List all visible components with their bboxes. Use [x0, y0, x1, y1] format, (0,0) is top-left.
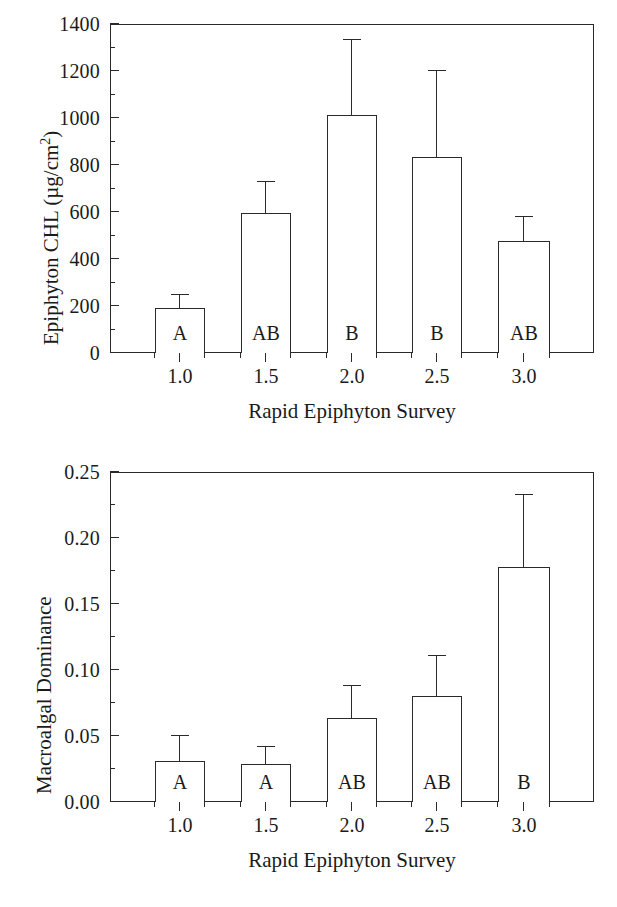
x-tick-mark-minor [290, 353, 291, 358]
y-tick-mark [110, 504, 115, 505]
y-axis-title-bottom: Macroalgal Dominance [32, 596, 56, 794]
error-bar-cap [428, 70, 446, 71]
chart-panel-epiphyton-chl: 0200400600800100012001400 1.01.52.02.53.… [0, 0, 617, 450]
y-tick-label: 0.25 [22, 462, 100, 482]
x-tick-label: 3.0 [484, 815, 564, 835]
x-tick-mark-minor [154, 802, 155, 807]
y-tick-mark [110, 305, 119, 306]
error-bar-stem [351, 39, 352, 115]
y-tick-label: 1200 [22, 61, 100, 81]
significance-letter: AB [221, 323, 311, 343]
significance-letter: B [392, 323, 482, 343]
y-tick-label: 0.00 [22, 792, 100, 812]
x-tick-mark-minor [461, 353, 462, 358]
x-tick-mark-minor [154, 353, 155, 358]
y-tick-mark [110, 164, 119, 165]
x-tick-label: 2.5 [397, 815, 477, 835]
bar [327, 115, 377, 353]
y-tick-mark [110, 141, 115, 142]
x-tick-mark-minor [549, 802, 550, 807]
error-bar-stem [265, 181, 266, 213]
x-tick-mark-minor [497, 802, 498, 807]
y-tick-label: 0 [22, 343, 100, 363]
y-tick-label: 1000 [22, 108, 100, 128]
x-tick-label: 1.0 [140, 366, 220, 386]
error-bar-stem [179, 294, 180, 308]
x-tick-label: 1.0 [140, 815, 220, 835]
x-tick-mark [523, 802, 524, 811]
x-tick-mark-minor [549, 353, 550, 358]
x-tick-mark-minor [240, 802, 241, 807]
x-tick-label: 2.0 [312, 366, 392, 386]
x-tick-mark [351, 802, 352, 811]
x-tick-mark-minor [290, 802, 291, 807]
x-tick-mark-minor [240, 353, 241, 358]
significance-letter: A [135, 323, 225, 343]
error-bar-stem [523, 494, 524, 567]
error-bar-cap [171, 735, 189, 736]
x-tick-label: 1.5 [226, 366, 306, 386]
y-tick-mark [110, 282, 115, 283]
y-tick-mark [110, 669, 119, 670]
x-tick-mark-minor [326, 802, 327, 807]
error-bar-cap [515, 494, 533, 495]
significance-letter: AB [307, 772, 397, 792]
y-tick-mark [110, 768, 115, 769]
error-bar-stem [523, 217, 524, 241]
y-tick-mark [110, 188, 115, 189]
y-tick-mark [110, 352, 119, 353]
bar [498, 567, 550, 802]
x-tick-mark [436, 353, 437, 362]
error-bar-stem [436, 655, 437, 696]
x-tick-mark [436, 802, 437, 811]
y-tick-mark [110, 258, 119, 259]
x-axis-title-bottom: Rapid Epiphyton Survey [50, 848, 617, 872]
x-tick-mark [265, 802, 266, 811]
y-tick-mark [110, 537, 119, 538]
y-axis-title-top: Epiphyton CHL (µg/cm2) [34, 131, 63, 345]
y-tick-label: 0.20 [22, 528, 100, 548]
error-bar-cap [257, 181, 275, 182]
y-tick-mark [110, 471, 119, 472]
y-tick-mark [110, 70, 119, 71]
error-bar-cap [515, 216, 533, 217]
x-tick-label: 2.5 [397, 366, 477, 386]
x-tick-mark [179, 353, 180, 362]
x-tick-mark-minor [204, 353, 205, 358]
x-tick-mark-minor [461, 802, 462, 807]
y-tick-mark [110, 235, 115, 236]
x-tick-mark [351, 353, 352, 362]
x-tick-mark-minor [411, 353, 412, 358]
y-tick-mark [110, 801, 119, 802]
x-axis-title-top: Rapid Epiphyton Survey [50, 399, 617, 423]
x-tick-mark-minor [497, 353, 498, 358]
y-tick-mark [110, 47, 115, 48]
y-axis-title-superscript: 2 [38, 138, 53, 145]
x-tick-mark [179, 802, 180, 811]
error-bar-stem [179, 736, 180, 761]
x-tick-mark-minor [326, 353, 327, 358]
error-bar-cap [428, 655, 446, 656]
error-bar-cap [343, 685, 361, 686]
y-tick-mark [110, 211, 119, 212]
y-tick-mark [110, 636, 115, 637]
x-tick-mark-minor [204, 802, 205, 807]
figure-two-panel-bar-chart: 0200400600800100012001400 1.01.52.02.53.… [0, 0, 617, 907]
error-bar-cap [343, 39, 361, 40]
y-tick-mark [110, 735, 119, 736]
significance-letter: B [307, 323, 397, 343]
x-tick-mark-minor [376, 802, 377, 807]
y-tick-mark [110, 23, 119, 24]
x-tick-mark [265, 353, 266, 362]
error-bar-cap [171, 294, 189, 295]
significance-letter: AB [392, 772, 482, 792]
error-bar-stem [351, 686, 352, 718]
x-tick-label: 3.0 [484, 366, 564, 386]
significance-letter: A [221, 772, 311, 792]
chart-panel-macroalgal-dominance: 0.000.050.100.150.200.25 1.01.52.02.53.0… [0, 450, 617, 907]
significance-letter: AB [478, 323, 570, 343]
error-bar-stem [265, 747, 266, 764]
significance-letter: B [478, 772, 570, 792]
error-bar-stem [436, 71, 437, 157]
error-bar-cap [257, 746, 275, 747]
